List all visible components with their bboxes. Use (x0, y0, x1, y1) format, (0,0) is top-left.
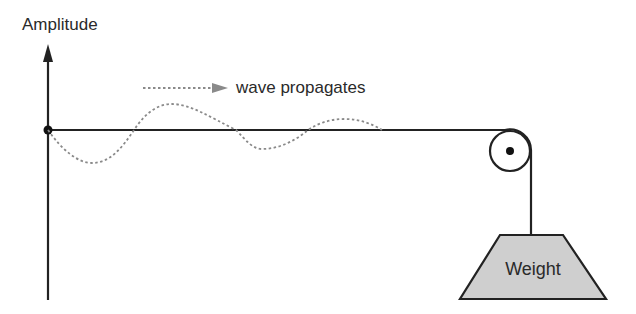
arrow-right-icon (212, 83, 228, 93)
axis-arrow-icon (43, 44, 53, 62)
pulley-axle-icon (506, 147, 514, 155)
wave-label: wave propagates (235, 78, 365, 97)
weight-label: Weight (505, 259, 561, 279)
axis-label: Amplitude (22, 15, 98, 34)
amplitude-axis (43, 44, 53, 300)
pulley (490, 129, 531, 171)
wave-on-string-diagram: Amplitude wave propagates Weight (0, 0, 636, 314)
propagation-arrow (143, 83, 228, 93)
transverse-wave (48, 104, 382, 163)
hanging-weight: Weight (460, 235, 606, 299)
